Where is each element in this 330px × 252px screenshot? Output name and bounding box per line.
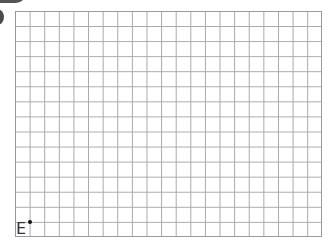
top-tab-shape [0,0,26,3]
point-label: E [16,221,26,237]
point-dot-icon [28,220,32,224]
side-handle-shape [0,9,4,25]
graph-grid [15,11,322,237]
